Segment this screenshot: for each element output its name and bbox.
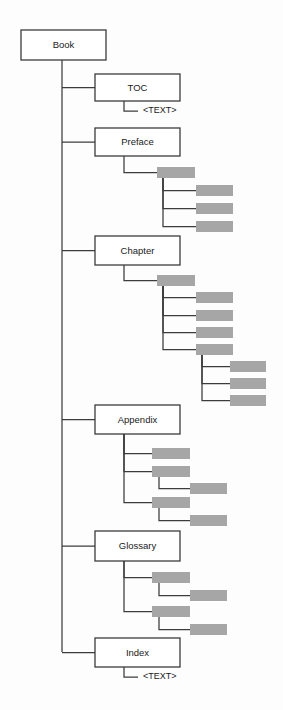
connector-chapter-s3 (163, 286, 196, 333)
node-book-label: Book (53, 39, 75, 50)
gray-node-rect (152, 606, 190, 617)
connector-appendix-a3 (124, 434, 152, 503)
gray-node-preface-s3 (196, 221, 233, 232)
node-appendix[interactable]: Appendix (95, 405, 180, 434)
connector-chapter-s4 (163, 286, 196, 350)
gray-node-rect (190, 624, 227, 635)
gray-node-rect (196, 292, 233, 303)
labeled-node-layer: BookTOCPrefaceChapterAppendixGlossaryInd… (21, 30, 180, 667)
connector-glossary-g1 (124, 561, 152, 578)
gray-node-preface-s2 (196, 203, 233, 214)
connector-preface-s2 (163, 178, 196, 209)
gray-node-preface-s1 (196, 185, 233, 196)
gray-node-rect (152, 572, 190, 583)
node-chapter-label: Chapter (121, 245, 155, 256)
gray-node-appendix-a2a (190, 483, 227, 494)
toc-text-label: <TEXT> (143, 105, 177, 115)
connector-appendix-a2 (124, 434, 152, 472)
node-appendix-label: Appendix (118, 414, 158, 425)
gray-node-rect (152, 448, 190, 459)
connector-glossary-g1a (159, 583, 190, 596)
connector-chapter-s4a (202, 355, 230, 367)
index-text-label: <TEXT> (143, 671, 177, 681)
gray-node-rect (196, 344, 233, 355)
gray-node-rect (152, 466, 190, 477)
gray-node-chapter-s4c (230, 395, 266, 406)
book-structure-tree: BookTOCPrefaceChapterAppendixGlossaryInd… (0, 0, 283, 710)
connector-appendix-a2a (159, 477, 190, 489)
connector-preface-s3 (163, 178, 196, 227)
gray-node-chapter-s4a (230, 361, 266, 372)
connector-chapter-s2 (163, 286, 196, 316)
node-preface-label: Preface (121, 136, 154, 147)
node-index[interactable]: Index (95, 638, 180, 667)
gray-node-appendix-a3a (190, 515, 227, 526)
gray-node-preface-sec (157, 167, 195, 178)
connector-chapter-s1 (163, 286, 196, 298)
connector-preface-sec (124, 156, 157, 173)
gray-node-chapter-sec (157, 275, 195, 286)
gray-node-rect (152, 497, 190, 508)
gray-node-rect (230, 395, 266, 406)
node-preface[interactable]: Preface (95, 128, 180, 156)
node-glossary[interactable]: Glossary (95, 531, 180, 561)
gray-node-chapter-s2 (196, 310, 233, 321)
gray-node-appendix-a3 (152, 497, 190, 508)
gray-node-rect (230, 378, 266, 389)
connector-preface-s1 (163, 178, 196, 191)
node-toc-label: TOC (128, 82, 148, 93)
gray-node-rect (190, 515, 227, 526)
gray-node-glossary-g2 (152, 606, 190, 617)
gray-node-rect (196, 327, 233, 338)
gray-node-chapter-s3 (196, 327, 233, 338)
connector-chapter-s4c (202, 355, 230, 401)
gray-node-rect (190, 590, 227, 601)
connector-toc-text (124, 101, 138, 111)
node-book[interactable]: Book (21, 30, 106, 60)
connector-glossary-g2 (124, 561, 152, 612)
connector-index-text (124, 667, 138, 677)
gray-node-rect (230, 361, 266, 372)
gray-node-rect (196, 310, 233, 321)
node-index-label: Index (126, 647, 149, 658)
gray-node-glossary-g1 (152, 572, 190, 583)
gray-node-glossary-g1a (190, 590, 227, 601)
node-glossary-label: Glossary (119, 540, 157, 551)
gray-node-rect (196, 185, 233, 196)
gray-node-rect (157, 275, 195, 286)
gray-node-chapter-s4 (196, 344, 233, 355)
connector-chapter-sec (124, 265, 157, 281)
gray-node-chapter-s1 (196, 292, 233, 303)
tree-diagram-canvas: BookTOCPrefaceChapterAppendixGlossaryInd… (0, 0, 283, 710)
gray-node-glossary-g2a (190, 624, 227, 635)
gray-node-rect (196, 203, 233, 214)
node-chapter[interactable]: Chapter (95, 236, 180, 265)
connector-appendix-a3a (159, 508, 190, 521)
connector-glossary-g2a (159, 617, 190, 630)
gray-node-rect (190, 483, 227, 494)
node-toc[interactable]: TOC (95, 74, 180, 101)
gray-node-rect (157, 167, 195, 178)
gray-node-rect (196, 221, 233, 232)
gray-node-appendix-a2 (152, 466, 190, 477)
connector-chapter-s4b (202, 355, 230, 384)
connector-appendix-a1 (124, 434, 152, 454)
gray-node-chapter-s4b (230, 378, 266, 389)
gray-node-appendix-a1 (152, 448, 190, 459)
